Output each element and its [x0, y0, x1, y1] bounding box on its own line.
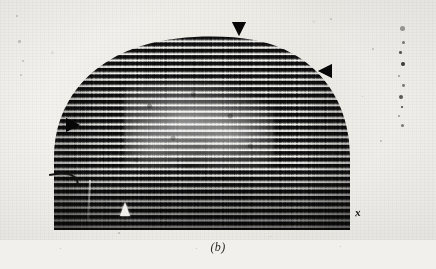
dust-speck: [372, 48, 374, 50]
edge-speck: [400, 26, 405, 31]
registration-x-mark: x: [355, 207, 361, 218]
edge-speck-column: [396, 18, 414, 130]
dust-speck: [18, 40, 21, 43]
edge-speck: [398, 115, 400, 117]
arrowhead-left-icon: [318, 64, 332, 78]
specimen-dome: [46, 30, 358, 230]
edge-speck: [402, 41, 405, 44]
edge-speck: [401, 106, 403, 108]
basal-dark-band: [46, 174, 358, 230]
dust-speck: [22, 60, 24, 62]
dust-speck: [380, 140, 382, 142]
dust-speck: [20, 74, 22, 76]
figure-root: x (b): [0, 0, 436, 269]
edge-speck: [399, 51, 402, 54]
arrowhead-up-white-icon: [120, 202, 130, 216]
dome-clip: [46, 30, 358, 230]
dust-speck: [362, 96, 363, 97]
dust-speck: [330, 18, 332, 20]
dust-speck: [270, 236, 271, 237]
dust-speck: [118, 232, 120, 234]
edge-speck: [401, 124, 404, 127]
dust-speck: [16, 15, 18, 17]
edge-speck: [399, 95, 403, 99]
micrograph-plate: x: [0, 0, 436, 240]
edge-speck: [398, 75, 400, 77]
edge-speck: [402, 84, 405, 87]
arrowhead-down-icon: [232, 22, 246, 36]
arrowhead-right-icon: [66, 118, 80, 132]
figure-caption: (b): [0, 240, 436, 255]
edge-speck: [401, 62, 405, 66]
